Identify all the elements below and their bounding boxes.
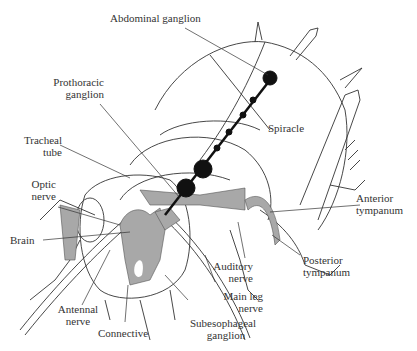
label-spiracle: Spiracle [268,122,304,134]
optic-nerve-shape [60,205,80,260]
label-antennal-nerve: Antennal nerve [48,303,108,327]
cricket-illustration [0,0,417,351]
label-auditory-nerve: Auditory nerve [205,260,253,284]
metathoracic-ganglion [194,160,212,178]
label-subesophageal-ganglion: Subesophageal ganglion [190,317,262,341]
label-anterior-tympanum: Anterior tympanum [356,192,403,216]
label-posterior-tympanum: Posterior tympanum [303,254,350,278]
label-brain: Brain [10,234,34,246]
label-abdominal-ganglion: Abdominal ganglion [110,12,201,24]
mesothoracic-ganglion [177,179,195,197]
label-tracheal-tube: Tracheal tube [18,134,62,158]
label-optic-nerve: Optic nerve [18,178,56,202]
label-main-leg-nerve: Main leg nerve [215,290,263,314]
brain-shape [120,208,165,285]
label-connective: Connective [98,327,148,339]
label-prothoracic-ganglion: Prothoracic ganglion [48,76,104,100]
